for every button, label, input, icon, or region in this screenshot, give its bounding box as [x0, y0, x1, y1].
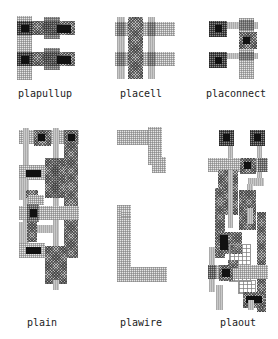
pla-cell-gallery: plapullup placell placonnect — [0, 0, 278, 339]
cell-label: plaout — [220, 317, 256, 328]
poly-center — [228, 170, 233, 228]
poly-bottom — [248, 300, 254, 310]
overlap — [258, 158, 267, 172]
overlap — [208, 265, 216, 279]
poly-lower-tail — [216, 285, 223, 310]
contact-icon — [220, 235, 228, 250]
contact-icon — [222, 269, 230, 277]
contact-icon — [223, 134, 230, 141]
contact-icon — [244, 162, 251, 169]
contact-icon — [254, 134, 261, 141]
metal-upper-right — [243, 190, 255, 208]
metal-stub — [228, 260, 238, 268]
horizontal-wire-lower — [208, 265, 268, 279]
cell-plaout — [0, 0, 278, 339]
